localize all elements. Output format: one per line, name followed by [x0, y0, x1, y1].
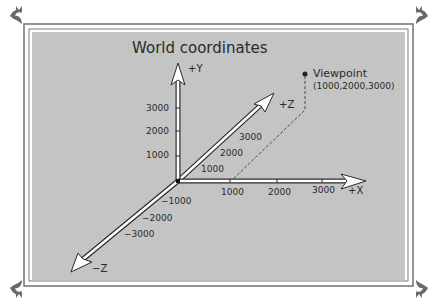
- corner-ornament-icon: [416, 6, 428, 24]
- x-tick-label: 2000: [268, 188, 291, 197]
- x-tick-label: 3000: [312, 186, 335, 195]
- z-tick-label: 2000: [220, 149, 243, 158]
- y-tick-label: 1000: [146, 151, 169, 160]
- origin-point: [176, 179, 180, 183]
- z-tick-label: 1000: [201, 165, 224, 174]
- corner-ornament-icon: [416, 280, 428, 298]
- z-negative-tick-label: −2000: [142, 214, 172, 223]
- z-positive-axis-label: +Z: [279, 100, 294, 110]
- diagram-title: World coordinates: [132, 39, 268, 57]
- viewpoint-coordinates: (1000,2000,3000): [313, 82, 394, 91]
- y-tick-label: 3000: [146, 104, 169, 113]
- corner-ornament-icon: [10, 280, 22, 298]
- z-negative-tick-label: −1000: [161, 197, 191, 206]
- y-tick-label: 2000: [146, 127, 169, 136]
- x-tick-label: 1000: [221, 188, 244, 197]
- viewpoint-dot: [303, 72, 308, 77]
- z-tick-label: 3000: [239, 133, 262, 142]
- y-axis-label: +Y: [188, 64, 203, 74]
- corner-ornament-icon: [10, 6, 22, 24]
- x-axis-label: +X: [348, 186, 363, 196]
- z-negative-tick-label: −3000: [124, 230, 154, 239]
- z-negative-axis-label: −Z: [92, 264, 107, 274]
- viewpoint-label: Viewpoint: [313, 68, 367, 79]
